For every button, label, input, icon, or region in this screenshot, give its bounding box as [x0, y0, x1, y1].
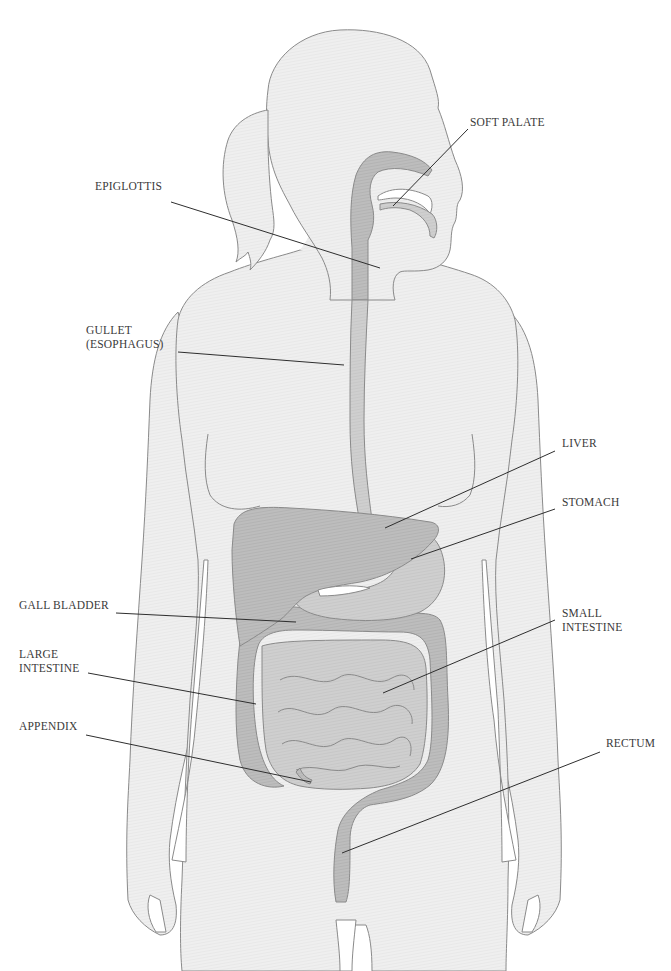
label-soft-palate: SOFT PALATE [470, 115, 545, 129]
ponytail [223, 110, 274, 270]
label-epiglottis: EPIGLOTTIS [95, 179, 162, 193]
label-rectum: RECTUM [606, 736, 655, 750]
label-small-intestine: SMALL INTESTINE [562, 606, 623, 634]
label-gullet: GULLET (ESOPHAGUS) [86, 323, 164, 351]
label-gall-bladder: GALL BLADDER [19, 598, 109, 612]
label-liver: LIVER [562, 436, 597, 450]
label-stomach: STOMACH [562, 495, 619, 509]
small-intestine [262, 640, 427, 789]
label-large-intestine: LARGE INTESTINE [19, 647, 80, 675]
digestive-system-diagram: SOFT PALATE EPIGLOTTIS GULLET (ESOPHAGUS… [0, 0, 671, 971]
label-appendix: APPENDIX [19, 719, 77, 733]
anatomy-illustration [0, 0, 671, 971]
